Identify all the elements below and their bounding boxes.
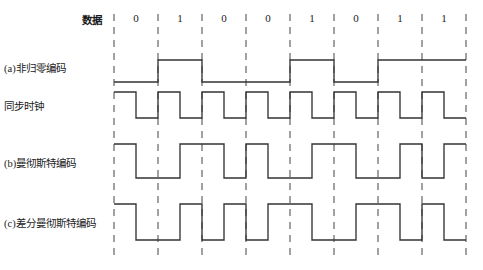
bit-label-6: 1: [378, 12, 422, 24]
bit-label-4: 1: [290, 12, 334, 24]
bit-label-7: 1: [422, 12, 466, 24]
bit-label-2: 0: [202, 12, 246, 24]
bit-label-3: 0: [246, 12, 290, 24]
row-label-3: (c)差分曼彻斯特编码: [4, 215, 96, 230]
bit-label-0: 0: [114, 12, 158, 24]
row-label-0: (a)非归零编码: [4, 60, 66, 75]
bit-label-1: 1: [158, 12, 202, 24]
data-row-title: 数据: [82, 12, 102, 27]
row-label-1: 同步时钟: [4, 98, 44, 113]
bit-label-5: 0: [334, 12, 378, 24]
row-label-2: (b)曼彻斯特编码: [4, 155, 76, 170]
